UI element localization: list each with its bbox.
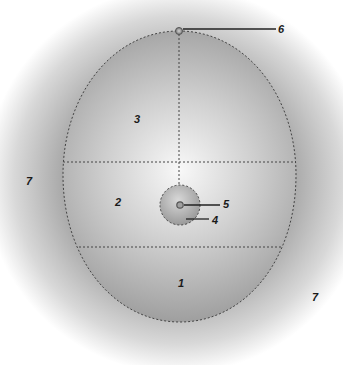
label-1: 1 [178,277,184,289]
central-dot [177,202,183,208]
label-4: 4 [211,214,218,226]
label-7-right: 7 [312,291,319,303]
label-2: 2 [114,196,121,208]
label-6: 6 [278,23,285,35]
diagram-canvas: 6 3 7 2 5 4 1 7 [0,0,343,365]
label-7-left: 7 [26,175,33,187]
label-3: 3 [134,113,140,125]
label-5: 5 [223,198,230,210]
apex-dot [176,28,183,35]
